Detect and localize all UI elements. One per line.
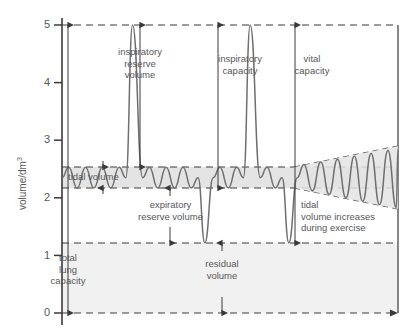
label-tidal-volume: tidal volume: [68, 171, 119, 182]
y-tick-label-2: 2: [36, 191, 50, 203]
y-axis-ticks: [54, 25, 62, 313]
exercise-tidal-band: [294, 146, 398, 209]
lung-volume-spirogram: [0, 0, 418, 330]
residual-volume-band: [62, 243, 398, 313]
y-tick-label-0: 0: [36, 306, 50, 318]
y-axis-label-exponent: 3: [16, 157, 23, 161]
y-tick-label-5: 5: [36, 18, 50, 30]
y-tick-label-1: 1: [36, 249, 50, 261]
y-tick-label-4: 4: [36, 76, 50, 88]
y-axis-label: volume/dm3: [16, 157, 28, 210]
spirometer-trace: [62, 25, 398, 243]
y-tick-label-3: 3: [36, 133, 50, 145]
